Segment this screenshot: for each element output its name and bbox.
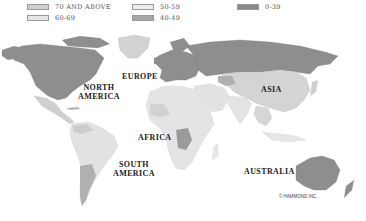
- indonesia: [262, 132, 306, 142]
- legend-label: 70 AND ABOVE: [55, 3, 111, 11]
- legend-item-40-49: 40-49: [132, 14, 180, 22]
- russia: [186, 40, 338, 76]
- legend-swatch: [132, 15, 154, 21]
- south-america-cone: [80, 164, 96, 206]
- legend-item-50-59: 50-59: [132, 3, 180, 11]
- madagascar: [212, 144, 218, 160]
- legend-swatch: [27, 15, 49, 21]
- legend-swatch: [132, 4, 154, 10]
- arctic-islands: [62, 36, 110, 48]
- australia: [296, 156, 340, 190]
- legend-item-60-69: 60-69: [27, 14, 75, 22]
- japan: [310, 80, 318, 96]
- southeast-asia: [254, 106, 272, 126]
- legend-label: 0-39: [265, 3, 281, 11]
- legend-item-0-39: 0-39: [237, 3, 281, 11]
- india: [228, 96, 252, 124]
- legend-item-70-above: 70 AND ABOVE: [27, 3, 111, 11]
- map-legend: 70 AND ABOVE 60-69 50-59 40-49 0-39: [0, 0, 366, 26]
- legend-swatch: [27, 4, 49, 10]
- label-north-america: NORTH AMERICA: [78, 83, 120, 101]
- british-isles: [154, 56, 160, 64]
- scandinavia: [170, 38, 190, 52]
- greenland: [118, 35, 150, 58]
- legend-label: 60-69: [55, 14, 75, 22]
- new-zealand: [344, 180, 354, 198]
- world-map: [0, 0, 366, 221]
- label-south-america: SOUTH AMERICA: [113, 160, 155, 178]
- caribbean: [66, 107, 80, 110]
- central-america: [34, 96, 74, 124]
- legend-swatch: [237, 4, 259, 10]
- label-europe: EUROPE: [122, 72, 158, 81]
- label-africa: AFRICA: [138, 133, 172, 142]
- copyright-credit: © HAMMOND INC.: [279, 194, 318, 199]
- label-asia: ASIA: [261, 85, 282, 94]
- label-australia: AUSTRALIA: [244, 167, 295, 176]
- south-america: [70, 122, 118, 206]
- legend-label: 50-59: [160, 3, 180, 11]
- legend-label: 40-49: [160, 14, 180, 22]
